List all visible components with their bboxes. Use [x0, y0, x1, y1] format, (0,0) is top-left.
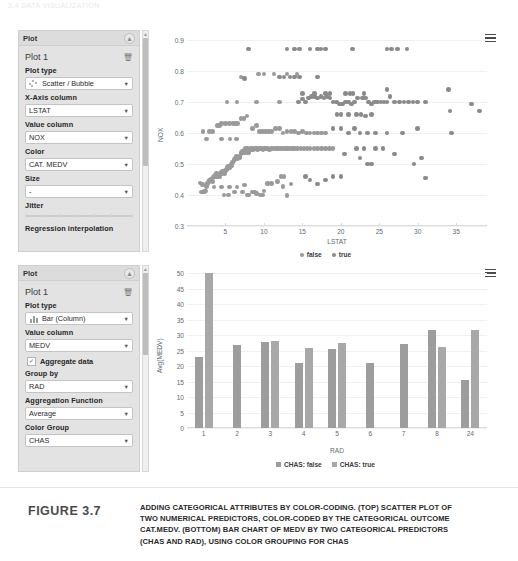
legend-swatch-icon: [300, 253, 304, 257]
scatter-point: [331, 126, 336, 131]
scroll-up-icon[interactable]: ▲: [143, 266, 148, 272]
color-select[interactable]: CAT. MEDV ▼: [25, 158, 133, 171]
scatter-x-axis-label: LSTAT: [327, 238, 347, 245]
x-axis-tick: 6: [368, 430, 372, 437]
value-column-value: MEDV: [29, 341, 122, 350]
scatter-point: [289, 182, 294, 187]
scatter-plot-name: Plot 1: [25, 52, 48, 62]
caption-line: ADDING CATEGORICAL ATTRIBUTES BY COLOR-C…: [140, 502, 498, 513]
bar[interactable]: [461, 380, 469, 428]
y-axis-tick: 35: [177, 316, 184, 323]
y-axis-tick: 0.8: [175, 68, 184, 75]
legend-label: CHAS: true: [340, 461, 375, 468]
y-axis-tick: 30: [177, 332, 184, 339]
collapse-icon[interactable]: ▲: [124, 33, 135, 44]
bar[interactable]: [233, 345, 241, 428]
bar[interactable]: [271, 341, 279, 428]
x-axis-tickmark: [264, 223, 265, 226]
scatter-point: [275, 179, 280, 184]
plot-type-select[interactable]: Scatter / Bubble ▼: [25, 77, 133, 90]
bar[interactable]: [438, 347, 446, 428]
color-value: CAT. MEDV: [29, 160, 122, 169]
plot-type-value: Bar (Column): [42, 314, 122, 323]
bar[interactable]: [261, 342, 269, 428]
legend-item[interactable]: true: [332, 251, 351, 258]
scatter-point: [388, 94, 393, 99]
jitter-slider[interactable]: [25, 213, 133, 219]
scatter-point: [260, 193, 265, 198]
scrollbar-thumb[interactable]: [143, 38, 148, 166]
bar[interactable]: [471, 330, 479, 428]
aggregate-data-checkbox-row[interactable]: ✓ Aggregate data: [27, 357, 133, 366]
bar-screenshot: Plot ▲ Plot 1 🗑 Plot type Bar (Column) ▼…: [18, 265, 500, 480]
scatter-point: [308, 178, 313, 183]
scatter-point: [204, 137, 209, 142]
color-group-select[interactable]: CHAS ▼: [25, 434, 133, 447]
plot-type-select[interactable]: Bar (Column) ▼: [25, 312, 133, 325]
bar-chart-icon: [29, 314, 39, 323]
chevron-down-icon: ▼: [124, 438, 129, 444]
caption-line: CAT.MEDV. (BOTTOM) BAR CHART OF MEDV BY …: [140, 524, 498, 535]
scatter-point: [212, 185, 217, 190]
bar-sidebar-scrollbar[interactable]: ▲: [142, 265, 149, 472]
scatter-point: [373, 146, 378, 151]
scrollbar-thumb[interactable]: [143, 273, 148, 355]
bar-plot-title-row: Plot 1 🗑: [25, 287, 133, 297]
group-by-select[interactable]: RAD ▼: [25, 380, 133, 393]
bar-legend: CHAS: falseCHAS: true: [151, 461, 500, 468]
y-axis-tick: 0: [180, 425, 184, 432]
trash-icon[interactable]: 🗑: [123, 288, 133, 297]
legend-swatch-icon: [332, 253, 336, 257]
scatter-sidebar-panel[interactable]: Plot ▲ Plot 1 🗑 Plot type Scatter / Bubb…: [18, 30, 140, 252]
legend-item[interactable]: false: [300, 251, 322, 258]
scatter-point: [369, 112, 374, 117]
scatter-point: [339, 112, 344, 117]
scatter-point: [312, 91, 317, 96]
bar[interactable]: [205, 273, 213, 428]
size-select[interactable]: - ▼: [25, 185, 133, 198]
value-column-label: Value column: [25, 328, 133, 337]
trash-icon[interactable]: 🗑: [123, 53, 133, 62]
bar[interactable]: [305, 348, 313, 428]
bar[interactable]: [400, 344, 408, 428]
scatter-legend: falsetrue: [151, 251, 500, 258]
bar-plot-name: Plot 1: [25, 287, 48, 297]
checkmark-icon[interactable]: ✓: [27, 357, 36, 366]
legend-item[interactable]: CHAS: true: [332, 461, 375, 468]
scatter-point: [232, 190, 237, 195]
grid-line: [187, 226, 487, 227]
legend-label: false: [307, 251, 322, 258]
value-column-select[interactable]: MEDV ▼: [25, 339, 133, 352]
collapse-icon[interactable]: ▲: [124, 268, 135, 279]
x-axis-line: [187, 225, 487, 226]
bar-sidebar-panel[interactable]: Plot ▲ Plot 1 🗑 Plot type Bar (Column) ▼…: [18, 265, 140, 472]
scatter-point: [262, 72, 267, 77]
y-axis-tick: 0.3: [175, 223, 184, 230]
bar[interactable]: [428, 330, 436, 428]
page-running-header: 3.4 DATA VISUALIZATION: [8, 2, 100, 9]
bar[interactable]: [328, 349, 336, 428]
value-column-select[interactable]: NOX ▼: [25, 131, 133, 144]
bar[interactable]: [366, 363, 374, 428]
grid-line: [187, 195, 487, 196]
scatter-point: [203, 189, 208, 194]
scatter-point: [219, 185, 224, 190]
scatter-point: [373, 131, 378, 136]
x-axis-tickmark: [302, 223, 303, 226]
x-axis-column-select[interactable]: LSTAT ▼: [25, 104, 133, 117]
y-axis-tick: 0.9: [175, 37, 184, 44]
scroll-up-icon[interactable]: ▲: [143, 31, 148, 37]
figure-caption-block: FIGURE 3.7 ADDING CATEGORICAL ATTRIBUTES…: [0, 487, 518, 561]
scatter-point: [272, 72, 277, 77]
y-axis-tick: 25: [177, 347, 184, 354]
x-axis-tick: 30: [414, 228, 421, 235]
scatter-point: [405, 47, 410, 52]
bar[interactable]: [295, 363, 303, 428]
scatter-point: [392, 152, 397, 157]
legend-item[interactable]: CHAS: false: [276, 461, 322, 468]
bar[interactable]: [338, 343, 346, 428]
bar[interactable]: [195, 357, 203, 428]
scatter-sidebar-scrollbar[interactable]: ▲: [142, 30, 149, 252]
aggregation-function-select[interactable]: Average ▼: [25, 407, 133, 420]
x-axis-tickmark: [379, 223, 380, 226]
